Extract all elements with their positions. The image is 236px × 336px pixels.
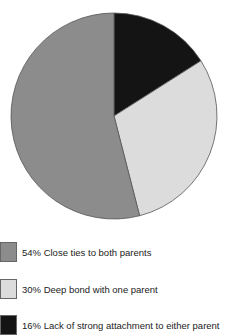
legend-item-deep-bond: 30% Deep bond with one parent <box>0 278 158 300</box>
pie-chart <box>0 0 236 235</box>
legend-label-deep-bond: 30% Deep bond with one parent <box>22 284 158 295</box>
legend-label-lack-attachment: 16% Lack of strong attachment to either … <box>22 320 220 331</box>
legend-item-lack-attachment: 16% Lack of strong attachment to either … <box>0 314 220 336</box>
legend-swatch-close-ties <box>0 242 17 262</box>
legend-swatch-lack-attachment <box>0 315 17 335</box>
legend-item-close-ties: 54% Close ties to both parents <box>0 241 151 263</box>
legend-swatch-deep-bond <box>0 279 17 299</box>
legend-label-close-ties: 54% Close ties to both parents <box>22 247 151 258</box>
